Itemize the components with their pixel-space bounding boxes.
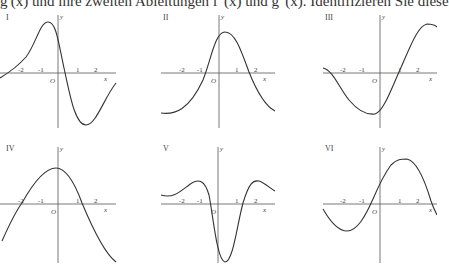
- panel-label: I: [6, 13, 9, 22]
- svg-text:1: 1: [235, 66, 239, 74]
- svg-text:1: 1: [398, 197, 402, 205]
- svg-text:-2: -2: [179, 197, 185, 205]
- svg-text:1: 1: [76, 197, 80, 205]
- svg-text:-1: -1: [38, 197, 44, 205]
- svg-text:x: x: [428, 206, 433, 214]
- svg-text:O: O: [51, 208, 56, 216]
- svg-text:II: II: [163, 13, 169, 22]
- svg-text:y: y: [220, 13, 225, 21]
- svg-text:1: 1: [398, 66, 402, 74]
- svg-text:-1: -1: [38, 66, 44, 74]
- svg-text:-1: -1: [359, 66, 365, 74]
- svg-text:2: 2: [254, 66, 258, 74]
- svg-text:O: O: [372, 208, 377, 216]
- svg-text:V: V: [163, 144, 169, 153]
- graph-ii: II y O x -2 -1 1 2: [145, 0, 291, 130]
- svg-text:-1: -1: [197, 197, 203, 205]
- graph-panel-ii: II y O x -2 -1 1 2: [145, 0, 291, 130]
- svg-text:-1: -1: [359, 197, 365, 205]
- svg-text:-2: -2: [18, 197, 24, 205]
- svg-text:-2: -2: [179, 66, 185, 74]
- svg-text:III: III: [325, 13, 333, 22]
- svg-text:x: x: [428, 75, 433, 83]
- svg-text:x: x: [262, 206, 267, 214]
- graph-panel-i: I y O x -2 -1 1 2: [0, 0, 146, 130]
- svg-text:2: 2: [416, 197, 420, 205]
- svg-text:VI: VI: [325, 144, 334, 153]
- svg-text:O: O: [372, 77, 377, 85]
- svg-text:-2: -2: [340, 197, 346, 205]
- graph-i: I y O x -2 -1 1 2: [0, 0, 146, 130]
- svg-text:1: 1: [76, 66, 80, 74]
- svg-text:2: 2: [94, 66, 98, 74]
- svg-text:2: 2: [416, 66, 420, 74]
- svg-text:2: 2: [94, 197, 98, 205]
- svg-text:O: O: [211, 77, 216, 85]
- svg-text:y: y: [59, 13, 64, 21]
- svg-text:1: 1: [235, 197, 239, 205]
- graph-panel-vi: VI y O x -2 -1 1 2: [287, 135, 433, 265]
- svg-text:2: 2: [254, 197, 258, 205]
- svg-text:x: x: [103, 75, 108, 83]
- graph-v: V y O x -2 -1 1 2: [145, 135, 291, 268]
- graph-panel-v: V y O x -2 -1 1 2: [145, 135, 291, 265]
- graph-iv: IV y O x -2 -1 1 2: [0, 135, 146, 268]
- svg-text:O: O: [50, 77, 55, 85]
- svg-text:y: y: [381, 145, 386, 153]
- svg-text:y: y: [59, 145, 64, 153]
- svg-text:O: O: [211, 208, 216, 216]
- graph-vi: VI y O x -2 -1 1 2: [287, 135, 437, 268]
- svg-text:-2: -2: [18, 66, 24, 74]
- svg-text:x: x: [103, 206, 108, 214]
- graph-panel-iii: III y O x -2 -1 1 2: [287, 0, 433, 130]
- graph-panel-iv: IV y O x -2 -1 1 2: [0, 135, 146, 265]
- svg-text:x: x: [262, 75, 267, 83]
- svg-text:IV: IV: [6, 144, 15, 153]
- svg-text:-1: -1: [197, 66, 203, 74]
- svg-text:y: y: [381, 13, 386, 21]
- svg-text:y: y: [219, 145, 224, 153]
- graph-iii: III y O x -2 -1 1 2: [287, 0, 437, 130]
- svg-text:-2: -2: [340, 66, 346, 74]
